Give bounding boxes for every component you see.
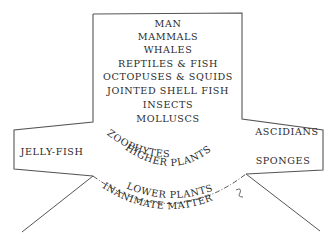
left-diagonal	[22, 176, 93, 232]
label-whales: WHALES	[144, 45, 193, 55]
label-insects: INSECTS	[143, 100, 193, 110]
label-man: MAN	[155, 19, 182, 29]
label-sponges: SPONGES	[256, 156, 311, 166]
diagram-canvas: ZOOPHYTES HIGHER PLANTS LOWER PLANTS INA…	[0, 0, 335, 242]
label-mammals: MAMMALS	[138, 32, 198, 42]
right-diagonal	[246, 174, 320, 231]
label-jointed-shell-fish: JOINTED SHELL FISH	[107, 86, 229, 96]
label-ascidians: ASCIDIANS	[255, 127, 318, 137]
curl-flourish	[236, 189, 243, 197]
label-jelly-fish: JELLY-FISH	[21, 147, 84, 157]
label-molluscs: MOLLUSCS	[136, 114, 199, 124]
label-reptiles-fish: REPTILES & FISH	[118, 59, 218, 69]
label-octopuses-squids: OCTOPUSES & SQUIDS	[103, 72, 233, 82]
